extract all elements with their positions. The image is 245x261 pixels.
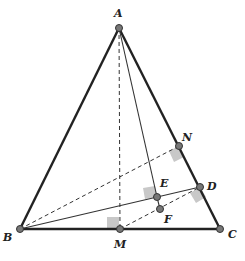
point-a — [116, 25, 123, 32]
label-a: A — [113, 7, 123, 20]
point-f — [157, 206, 164, 213]
label-b: B — [2, 231, 12, 244]
point-b — [17, 226, 24, 233]
label-f: F — [163, 213, 173, 226]
label-e: E — [159, 177, 169, 190]
side-ab — [20, 28, 119, 229]
geometry-diagram: A B C M N D E F — [0, 0, 245, 261]
label-m: M — [113, 238, 127, 251]
side-ac — [119, 28, 220, 229]
solid-lines — [20, 28, 200, 229]
segment-am — [119, 28, 120, 229]
label-c: C — [228, 228, 237, 241]
point-d — [197, 184, 204, 191]
dashed-lines — [20, 28, 200, 229]
point-c — [217, 226, 224, 233]
label-n: N — [181, 131, 193, 144]
right-angle-marks — [107, 146, 206, 229]
segment-ae — [119, 28, 157, 197]
point-m — [117, 226, 124, 233]
label-d: D — [206, 180, 217, 193]
point-e — [154, 194, 161, 201]
